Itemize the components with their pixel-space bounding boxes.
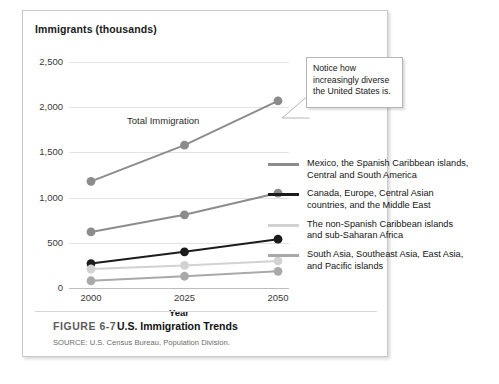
legend-swatch-icon xyxy=(268,224,299,227)
figure-number: FIGURE 6-7 xyxy=(53,320,116,332)
legend-item: Mexico, the Spanish Caribbean islands,Ce… xyxy=(268,158,498,181)
legend-item: South Asia, Southeast Asia, East Asia,an… xyxy=(268,249,498,272)
legend-item-label: The non-Spanish Caribbean islandsand sub… xyxy=(307,219,498,242)
data-point-marker xyxy=(180,261,189,270)
figure-title: U.S. Immigration Trends xyxy=(117,320,238,332)
legend-item-label-line2: countries, and the Middle East xyxy=(307,200,498,212)
data-point-marker xyxy=(180,210,189,219)
legend-item-label: Canada, Europe, Central Asiancountries, … xyxy=(307,188,498,211)
data-point-marker xyxy=(87,228,96,237)
data-point-marker xyxy=(180,141,189,150)
legend-swatch-icon xyxy=(268,254,299,257)
chart-legend: Mexico, the Spanish Caribbean islands,Ce… xyxy=(268,158,498,280)
data-point-marker xyxy=(87,177,96,186)
legend-item: Canada, Europe, Central Asiancountries, … xyxy=(268,188,498,211)
legend-item-label-line2: and sub-Saharan Africa xyxy=(307,230,498,242)
legend-item: The non-Spanish Caribbean islandsand sub… xyxy=(268,219,498,242)
legend-item-label-line1: Mexico, the Spanish Caribbean islands, xyxy=(307,158,498,170)
legend-item-label-line1: South Asia, Southeast Asia, East Asia, xyxy=(307,249,498,261)
legend-item-label-line2: and Pacific islands xyxy=(307,261,498,273)
data-point-marker xyxy=(87,276,96,285)
legend-item-label-line1: Canada, Europe, Central Asian xyxy=(307,188,498,200)
data-point-marker xyxy=(180,272,189,281)
legend-item-label-line2: Central and South America xyxy=(307,170,498,182)
legend-item-label-line1: The non-Spanish Caribbean islands xyxy=(307,219,498,231)
total-immigration-annotation: Total Immigration xyxy=(127,115,199,126)
legend-item-label: Mexico, the Spanish Caribbean islands,Ce… xyxy=(307,158,498,181)
figure-caption: FIGURE 6-7 U.S. Immigration Trends SOURC… xyxy=(23,311,389,358)
callout-note: Notice how increasingly diverse the Unit… xyxy=(306,57,403,108)
legend-item-label: South Asia, Southeast Asia, East Asia,an… xyxy=(307,249,498,272)
callout-text: Notice how increasingly diverse the Unit… xyxy=(313,63,391,96)
legend-swatch-icon xyxy=(268,163,299,166)
caption-divider xyxy=(35,311,377,312)
data-point-marker xyxy=(180,247,189,256)
data-point-marker xyxy=(87,265,96,274)
figure-source: SOURCE: U.S. Census Bureau, Population D… xyxy=(53,338,230,347)
legend-swatch-icon xyxy=(268,193,299,196)
